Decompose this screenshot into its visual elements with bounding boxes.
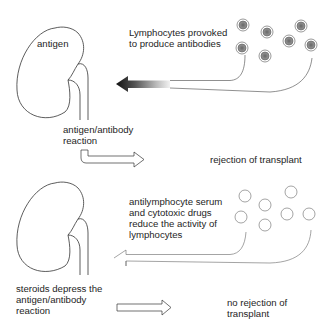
antigen-label: antigen — [37, 38, 68, 49]
treatment-label-line4: lymphocytes — [129, 229, 182, 240]
lymphocyte-cells-active — [236, 19, 317, 62]
steroids-label-line2: antigen/antibody — [16, 294, 86, 305]
lymphocyte-feeder-lines — [170, 55, 312, 92]
lymphocytes-label-line1: Lymphocytes provoked — [129, 27, 227, 38]
steroids-label-line3: reaction — [16, 305, 50, 316]
outcome-arrow-top-icon — [81, 150, 144, 167]
lymphocytes-label-line2: to produce antibodies — [129, 38, 221, 49]
no-rejection-label-line2: transplant — [227, 308, 269, 319]
outcome-arrow-bottom-icon — [117, 300, 171, 315]
diagram-canvas — [0, 0, 329, 330]
reaction-label-line2: reaction — [63, 135, 97, 146]
treatment-label-line1: antilymphocyte serum — [129, 196, 222, 207]
rejection-label: rejection of transplant — [210, 154, 302, 165]
antibody-attack-arrow-icon — [116, 76, 170, 92]
lymphocyte-cells-suppressed — [235, 186, 315, 231]
reaction-label-line1: antigen/antibody — [63, 124, 133, 135]
steroids-label-line1: steroids depress the — [16, 283, 102, 294]
treatment-label-line3: reduce the activity of — [129, 218, 217, 229]
no-rejection-label-line1: no rejection of — [227, 297, 287, 308]
treatment-label-line2: and cytotoxic drugs — [129, 207, 212, 218]
kidney-bottom-icon — [17, 182, 88, 275]
